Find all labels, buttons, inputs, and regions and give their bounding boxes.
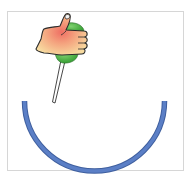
hand-icon <box>36 14 87 56</box>
illustration-canvas <box>0 0 194 175</box>
arc-shape <box>25 101 165 171</box>
